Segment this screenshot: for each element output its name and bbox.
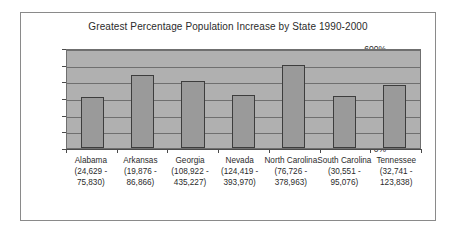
bar[interactable] [383, 85, 406, 149]
bar[interactable] [333, 96, 356, 148]
category-range-line: 75,830) [66, 177, 116, 188]
category-range-line: 95,076) [317, 177, 371, 188]
category-name: Nevada [215, 155, 265, 166]
x-axis-category-label: Georgia(108,922 -435,227) [165, 155, 215, 188]
category-range-line: (76,726 - [264, 166, 317, 177]
plot-wrap [66, 49, 421, 149]
bar-cell [319, 50, 369, 148]
bar-cell [117, 50, 167, 148]
x-axis-category-label: Tennessee(32,741 -123,838) [371, 155, 421, 188]
plot-area [66, 49, 421, 149]
bar[interactable] [181, 81, 204, 148]
x-axis-tick-mark [167, 149, 168, 153]
x-axis-category-label: Arkansas(19,876 -86,866) [116, 155, 166, 188]
x-axis-line [66, 149, 422, 150]
bar[interactable] [81, 97, 104, 148]
x-axis-category-label: Nevada(124,419 -393,970) [215, 155, 265, 188]
bar-cell [370, 50, 420, 148]
x-axis-tick-mark [117, 149, 118, 153]
x-axis-tick-mark [66, 149, 67, 153]
category-range-line: (108,922 - [165, 166, 215, 177]
bar-cell [218, 50, 268, 148]
x-axis-category-label: South Carolina(30,551 -95,076) [317, 155, 371, 188]
category-name: South Carolina [317, 155, 371, 166]
chart-frame: Greatest Percentage Population Increase … [20, 12, 436, 221]
category-range-line: 435,227) [165, 177, 215, 188]
category-range-line: 86,866) [116, 177, 166, 188]
x-axis-tick-mark [320, 149, 321, 153]
bar[interactable] [282, 65, 305, 148]
x-axis-labels: Alabama(24,629 -75,830)Arkansas(19,876 -… [66, 155, 421, 188]
bar[interactable] [131, 75, 154, 148]
category-range-line: (24,629 - [66, 166, 116, 177]
category-name: Georgia [165, 155, 215, 166]
x-axis-category-label: North Carolina(76,726 -378,963) [264, 155, 317, 188]
bar[interactable] [232, 95, 255, 148]
bar-series [67, 50, 420, 148]
chart-title: Greatest Percentage Population Increase … [21, 21, 435, 32]
bar-cell [168, 50, 218, 148]
category-range-line: 378,963) [264, 177, 317, 188]
category-range-line: 123,838) [371, 177, 421, 188]
x-axis-category-label: Alabama(24,629 -75,830) [66, 155, 116, 188]
category-range-line: (32,741 - [371, 166, 421, 177]
category-range-line: (124,419 - [215, 166, 265, 177]
category-range-line: 393,970) [215, 177, 265, 188]
bar-cell [269, 50, 319, 148]
category-name: Alabama [66, 155, 116, 166]
category-range-line: (30,551 - [317, 166, 371, 177]
x-axis-tick-mark [269, 149, 270, 153]
bar-cell [67, 50, 117, 148]
category-range-line: (19,876 - [116, 166, 166, 177]
x-axis-tick-mark [370, 149, 371, 153]
x-axis-tick-mark [218, 149, 219, 153]
category-name: Arkansas [116, 155, 166, 166]
category-name: Tennessee [371, 155, 421, 166]
category-name: North Carolina [264, 155, 317, 166]
x-axis-tick-mark [421, 149, 422, 153]
